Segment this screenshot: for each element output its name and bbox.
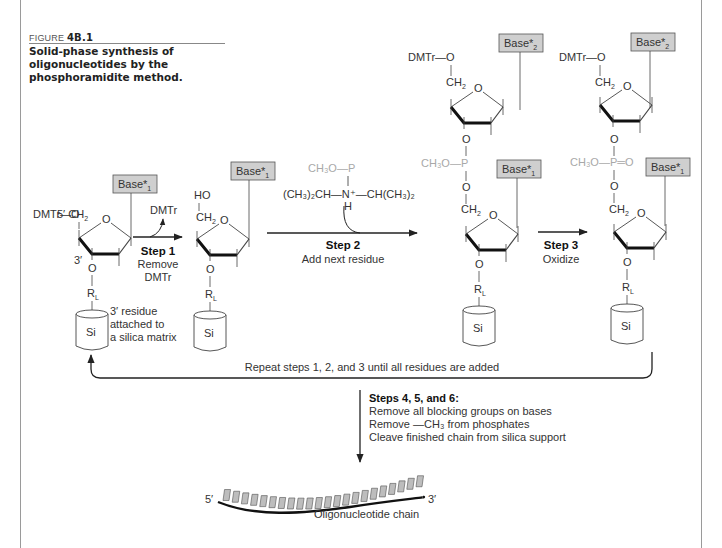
- phosphoramidite-reagent: CH₃O—P (CH₃)₂CH—N⁺—CH(CH₃)₂ H: [283, 162, 415, 212]
- step-3-line-1: Oxidize: [543, 253, 580, 265]
- reagent-amine: (CH₃)₂CH—N⁺—CH(CH₃)₂: [283, 188, 415, 200]
- chain-base: [232, 491, 240, 502]
- chain-base: [297, 498, 305, 509]
- ring-front-bond: [466, 234, 506, 250]
- ch2-3l-sub: 2: [477, 210, 481, 217]
- ch2-3u-main: CH: [446, 76, 462, 88]
- ring-bond: [111, 223, 131, 238]
- chain-base: [260, 496, 268, 507]
- ring-bond: [600, 90, 622, 105]
- three-prime-label: 3′: [74, 254, 82, 266]
- base-1-box-s3-label: Base*1: [502, 163, 535, 177]
- o-5l: O: [462, 181, 471, 193]
- ring-oxygen: O: [489, 209, 498, 221]
- dmtr-o-3: DMTr—O: [408, 51, 455, 63]
- o-3prime: O: [88, 262, 97, 274]
- ring-bond: [498, 219, 518, 234]
- ring-oxygen: O: [474, 82, 483, 94]
- dmtr-leaving-arrow: [150, 219, 163, 237]
- ring-bond: [491, 107, 503, 123]
- ch2-2-main: CH: [196, 211, 212, 223]
- base-1-box-s1-sub: 1: [147, 185, 151, 192]
- structure-3-phosphite-dinucleotide: Base*2DMTr—OCH2OCH₃O—POCH2Base*1ORLSi: [408, 34, 543, 346]
- chain-base: [361, 490, 369, 501]
- o-3prime: O: [206, 263, 215, 275]
- base-1-box-s3-sub: 1: [531, 170, 535, 177]
- silica-support: Si: [463, 306, 495, 346]
- chain-three-prime: 3′: [428, 493, 436, 505]
- base-1-box-s4-sub: 1: [680, 168, 684, 175]
- chain-label: Oligonucleotide chain: [314, 508, 419, 520]
- final-steps: Steps 4, 5, and 6: Remove all blocking g…: [360, 390, 566, 462]
- ring-bond: [229, 224, 249, 239]
- ring-bond: [197, 224, 219, 239]
- ring-front-bond: [79, 238, 119, 254]
- step-1-title: Step 1: [141, 245, 176, 257]
- ch2-4l-main: CH: [609, 203, 625, 215]
- phosphate-ch3o-p-o: CH₃O—P═O: [570, 156, 634, 168]
- chain-base: [241, 493, 249, 504]
- chain-base: [223, 490, 231, 501]
- base-2-box-s3-label: Base*2: [504, 37, 537, 51]
- ring-front-bond: [614, 232, 654, 248]
- ch2-2: CH2: [196, 211, 216, 225]
- ring-oxygen: O: [637, 207, 646, 219]
- base-1-box-s2-sub: 1: [265, 172, 269, 179]
- step-2-title: Step 2: [326, 239, 361, 251]
- ch2-4u-sub: 2: [611, 83, 615, 90]
- chain-base: [398, 481, 406, 492]
- base-2-box-s4: Base*2: [631, 33, 675, 51]
- step-3: Step 3 Oxidize: [538, 232, 587, 265]
- ch2-4u: CH2: [595, 76, 615, 90]
- ring-bond: [466, 219, 488, 234]
- ring-bond: [614, 217, 636, 232]
- phosphite-ch3o-p: CH₃O—P: [421, 157, 468, 169]
- chain-base: [342, 494, 350, 505]
- ring-bond: [119, 238, 131, 254]
- base-1-box-s1-text: Base*: [118, 178, 148, 190]
- base-1-box-s4-text: Base*: [651, 161, 681, 173]
- ring-bond: [646, 217, 666, 232]
- ring-front-bond: [197, 239, 237, 255]
- silica-support: Si: [194, 311, 226, 351]
- linker-rl: RL: [205, 288, 217, 302]
- residue-note: 3′ residue attached to a silica matrix: [110, 305, 177, 343]
- linker-rl-main: R: [622, 281, 630, 293]
- ch2-2-sub: 2: [212, 218, 216, 225]
- linker-rl: RL: [474, 283, 486, 297]
- chain-base: [324, 497, 332, 508]
- linker-rl-sub: L: [95, 294, 99, 301]
- step-1-line-1: Remove: [138, 258, 179, 270]
- chain-base: [278, 497, 286, 508]
- chain-base: [269, 497, 277, 508]
- base-1-box-s2: Base*1: [231, 162, 275, 180]
- reagent-ch3o-p: CH₃O—P: [308, 162, 355, 174]
- chain-base: [251, 494, 259, 505]
- dmtr-o-4: DMTr—O: [559, 51, 606, 63]
- five-prime-ch2-1-main: 5′ CH: [57, 208, 84, 220]
- silica-top: [194, 311, 226, 319]
- ch2-3u: CH2: [446, 76, 466, 90]
- o-3prime: O: [623, 256, 632, 268]
- base-1-box-s3-text: Base*: [502, 163, 532, 175]
- o-4u: O: [610, 133, 619, 145]
- linker-rl: RL: [622, 281, 634, 295]
- step-2-line-1: Add next residue: [302, 253, 385, 265]
- base-1-box-s4-label: Base*1: [651, 161, 684, 175]
- ring-bond: [506, 234, 518, 250]
- chain-base: [287, 498, 295, 509]
- silica-label: Si: [86, 326, 96, 338]
- chain-base: [315, 498, 323, 509]
- silica-top: [611, 304, 643, 312]
- step-3-title: Step 3: [544, 239, 579, 251]
- chain-base: [306, 498, 314, 509]
- five-prime-ch2-1: 5′ CH2: [57, 208, 88, 222]
- ring-bond: [79, 223, 101, 238]
- ch2-3l: CH2: [461, 203, 481, 217]
- base-2-box-s4-label: Base*2: [636, 36, 669, 50]
- linker-rl-sub: L: [482, 290, 486, 297]
- ring-oxygen: O: [102, 213, 111, 225]
- ring-bond: [237, 239, 249, 255]
- final-steps-line-2: Remove —CH₃ from phosphates: [369, 418, 530, 430]
- sugar-3u: O: [451, 82, 503, 135]
